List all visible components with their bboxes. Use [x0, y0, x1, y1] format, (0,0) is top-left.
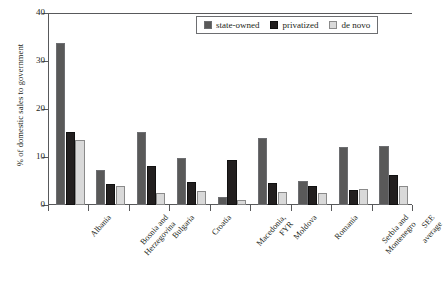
legend-item-de-novo: de novo	[329, 20, 370, 30]
bar-group	[96, 13, 125, 205]
x-tick-label: Moldova	[292, 213, 319, 242]
x-tick-label: Romania	[333, 213, 360, 242]
bar	[359, 189, 368, 205]
bar	[177, 158, 186, 205]
bar	[96, 170, 105, 205]
bar	[227, 160, 236, 205]
bar-group	[218, 13, 247, 205]
bar	[278, 192, 287, 205]
bar	[66, 132, 75, 205]
legend: state-owned privatized de novo	[196, 16, 378, 34]
bar-group	[56, 13, 85, 205]
legend-item-privatized: privatized	[270, 20, 318, 30]
x-tick-mark	[88, 205, 89, 211]
legend-swatch-icon	[270, 21, 278, 29]
x-tick-mark	[372, 205, 373, 211]
x-tick-mark	[331, 205, 332, 211]
bar-group	[298, 13, 327, 205]
y-tick-label: 10	[36, 151, 45, 161]
bar	[218, 197, 227, 205]
legend-swatch-icon	[329, 21, 337, 29]
x-tick-label: Macedonia, FYR	[255, 213, 295, 255]
bar	[56, 43, 65, 205]
bar	[298, 181, 307, 205]
legend-item-state-owned: state-owned	[204, 20, 259, 30]
bar-group	[137, 13, 166, 205]
bar	[137, 132, 146, 205]
bar	[258, 138, 267, 205]
legend-label: privatized	[282, 20, 318, 30]
legend-label: de novo	[341, 20, 370, 30]
x-tick-mark	[210, 205, 211, 211]
x-tick-label: Serbia and Montenegro	[377, 213, 418, 256]
x-tick-label: Croatia	[210, 213, 233, 238]
x-tick-mark	[169, 205, 170, 211]
bar-group	[258, 13, 287, 205]
bar-group	[177, 13, 206, 205]
x-tick-label: Albania	[89, 213, 114, 239]
bar	[318, 193, 327, 205]
bar-group	[339, 13, 368, 205]
x-tick-mark	[291, 205, 292, 211]
bar	[339, 147, 348, 205]
bar	[106, 184, 115, 205]
bar	[237, 200, 246, 205]
bar-groups	[48, 13, 412, 205]
y-tick-label: 30	[36, 55, 45, 65]
y-tick-label: 40	[36, 7, 45, 17]
bar	[379, 146, 388, 205]
bar	[268, 183, 277, 205]
x-tick-mark	[250, 205, 251, 211]
x-tick-mark	[412, 205, 413, 211]
plot-area: 010203040 AlbaniaBosnia and HerzegovinaB…	[48, 13, 412, 205]
bar	[349, 190, 358, 205]
legend-label: state-owned	[216, 20, 259, 30]
bar	[308, 186, 317, 205]
y-tick-label: 20	[36, 103, 45, 113]
bar	[116, 186, 125, 205]
bar	[187, 182, 196, 205]
bar	[147, 166, 156, 205]
x-tick-mark	[48, 205, 49, 211]
bar	[399, 186, 408, 205]
bar	[75, 140, 84, 205]
bar	[197, 191, 206, 205]
bar-group	[379, 13, 408, 205]
y-tick-label: 0	[41, 199, 46, 209]
legend-swatch-icon	[204, 21, 212, 29]
x-tick-label: SEE average	[412, 213, 443, 245]
bar	[156, 193, 165, 205]
y-axis-title: % of domestic sales to government	[15, 5, 25, 205]
bar	[389, 175, 398, 205]
x-tick-mark	[129, 205, 130, 211]
